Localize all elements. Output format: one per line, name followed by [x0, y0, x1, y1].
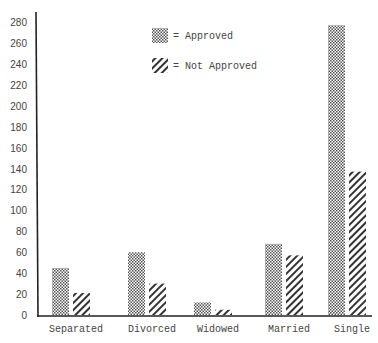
y-tick-label: 160 — [10, 143, 27, 154]
y-tick-label: 60 — [16, 247, 28, 258]
bar-approved-married — [265, 244, 282, 315]
bar-approved-single — [328, 25, 345, 315]
bar-not-approved-single — [349, 172, 366, 315]
bar-not-approved-divorced — [149, 284, 166, 315]
y-tick-label: 20 — [16, 289, 28, 300]
bar-chart: 020406080100120140160180200220240260280 … — [0, 0, 378, 343]
hatched-swatch-icon — [152, 58, 168, 73]
bar-not-approved-married — [286, 255, 303, 315]
y-tick-label: 200 — [10, 101, 27, 112]
x-axis-labels: SeparatedDivorcedWidowedMarriedSingle — [49, 324, 370, 335]
x-category-label: Divorced — [128, 324, 176, 335]
bar-not-approved-separated — [73, 293, 90, 315]
legend: = Approved= Not Approved — [152, 28, 257, 73]
checkered-swatch-icon — [152, 28, 168, 43]
y-tick-label: 80 — [16, 226, 28, 237]
y-tick-label: 40 — [16, 268, 28, 279]
y-tick-label: 120 — [10, 184, 27, 195]
legend-label: = Not Approved — [173, 61, 257, 72]
y-tick-label: 180 — [10, 122, 27, 133]
x-category-label: Single — [334, 324, 370, 335]
bar-approved-separated — [52, 268, 69, 315]
y-axis — [36, 12, 38, 317]
y-tick-label: 280 — [10, 17, 27, 28]
bar-approved-divorced — [128, 252, 145, 315]
bar-approved-widowed — [194, 302, 211, 315]
y-tick-label: 0 — [21, 310, 27, 321]
x-category-label: Married — [268, 324, 310, 335]
y-tick-label: 220 — [10, 80, 27, 91]
x-category-label: Widowed — [197, 324, 239, 335]
legend-label: = Approved — [173, 31, 233, 42]
y-tick-label: 240 — [10, 59, 27, 70]
y-tick-label: 140 — [10, 164, 27, 175]
y-axis-ticks: 020406080100120140160180200220240260280 — [10, 17, 27, 321]
y-tick-label: 100 — [10, 205, 27, 216]
x-category-label: Separated — [49, 324, 103, 335]
y-tick-label: 260 — [10, 38, 27, 49]
bar-not-approved-widowed — [215, 310, 232, 315]
